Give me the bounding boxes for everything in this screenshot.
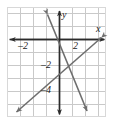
graph-canvas (0, 0, 113, 124)
x-tick-label-neg2: –2 (18, 41, 28, 51)
y-tick-label-neg2: –2 (41, 60, 51, 70)
coordinate-graph-figure: –2 2 –2 –4 y x (0, 0, 113, 124)
y-axis-name-label: y (62, 10, 66, 20)
y-tick-label-neg4: –4 (41, 85, 51, 95)
plot-border (8, 8, 106, 117)
x-tick-label-2: 2 (73, 41, 78, 51)
x-axis-name-label: x (96, 24, 100, 34)
